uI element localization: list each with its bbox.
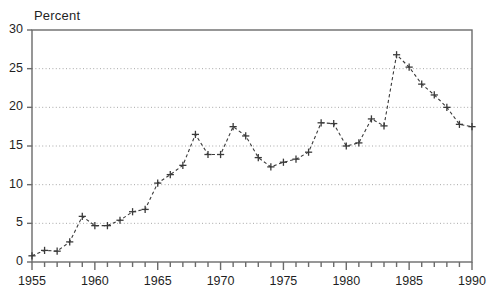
- series-data-markers: 1955: 0.81956: 1.51957: 1.41958: 2.61959…: [28, 51, 475, 259]
- data-point-marker: 1963: 6.5: [129, 208, 136, 215]
- y-tick-label: 25: [0, 61, 23, 75]
- data-point-marker: 1970: 13.9: [217, 151, 224, 158]
- data-point-marker: 1982: 18.5: [368, 115, 375, 122]
- x-tick-label: 1985: [379, 274, 439, 288]
- data-point-marker: 1959: 5.9: [79, 213, 86, 220]
- data-point-marker: 1983: 17.6: [380, 122, 387, 129]
- data-point-marker: 1981: 15.4: [355, 139, 362, 146]
- data-point-marker: 1975: 12.9: [280, 159, 287, 166]
- x-tick-label: 1980: [316, 274, 376, 288]
- data-point-marker: 1974: 12.3: [267, 163, 274, 170]
- y-tick-label: 0: [0, 254, 23, 268]
- data-point-marker: 1956: 1.5: [41, 247, 48, 254]
- y-axis-ticks: [27, 30, 32, 262]
- y-tick-label: 20: [0, 99, 23, 113]
- data-point-marker: 1977: 14.2: [305, 149, 312, 156]
- x-tick-label: 1960: [65, 274, 125, 288]
- data-point-marker: 1978: 18: [318, 119, 325, 126]
- data-point-marker: 1990: 17.5: [468, 123, 475, 130]
- x-tick-label: 1990: [442, 274, 502, 288]
- data-point-marker: 1958: 2.6: [66, 238, 73, 245]
- data-point-marker: 1961: 4.7: [104, 222, 111, 229]
- x-tick-label: 1970: [191, 274, 251, 288]
- y-tick-label: 10: [0, 177, 23, 191]
- data-point-marker: 1968: 16.5: [192, 131, 199, 138]
- chart-plot-area: 1955: 0.81956: 1.51957: 1.41958: 2.61959…: [0, 0, 502, 295]
- y-tick-label: 5: [0, 215, 23, 229]
- data-point-marker: 1964: 6.8: [142, 206, 149, 213]
- data-point-marker: 1965: 10.2: [154, 180, 161, 187]
- x-tick-label: 1955: [2, 274, 62, 288]
- y-tick-label: 30: [0, 22, 23, 36]
- data-point-marker: 1955: 0.8: [28, 252, 35, 259]
- x-tick-label: 1965: [128, 274, 188, 288]
- x-tick-label: 1975: [253, 274, 313, 288]
- data-point-marker: 1980: 15: [343, 142, 350, 149]
- data-point-marker: 1969: 13.9: [204, 151, 211, 158]
- data-point-marker: 1972: 16.3: [242, 132, 249, 139]
- x-axis-ticks: [32, 262, 472, 270]
- chart-container: Percent 1955: 0.81956: 1.51957: 1.41958:…: [0, 0, 502, 295]
- data-point-marker: 1967: 12.5: [179, 162, 186, 169]
- y-tick-label: 15: [0, 138, 23, 152]
- data-point-marker: 1976: 13.3: [292, 156, 299, 163]
- data-point-marker: 1962: 5.4: [116, 217, 123, 224]
- data-point-marker: 1979: 17.9: [330, 120, 337, 127]
